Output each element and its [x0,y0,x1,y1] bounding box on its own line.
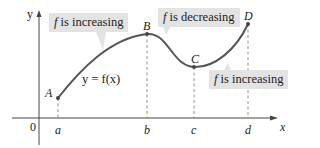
y-axis-label: y [27,8,33,20]
tick-label-a: a [55,124,61,136]
callout-text: is increasing [217,72,283,86]
x-axis-arrow-icon [270,116,278,121]
curve-label: y = f(x) [82,73,120,86]
point-label-a: A [45,87,52,99]
point-label-d: D [244,10,253,22]
tick-label-b: b [144,124,150,136]
point-label-b: B [143,20,150,32]
callout-increasing-right: f is increasing [209,70,288,89]
callout-pointer-1 [96,32,106,50]
point-a [56,96,60,100]
callout-increasing-left: f is increasing [49,13,128,32]
origin-label: 0 [30,121,36,133]
point-label-c: C [191,53,199,65]
y-axis-arrow-icon [37,10,42,17]
x-axis-label: x [280,121,285,133]
callout-text: is decreasing [166,10,234,24]
callout-text: is increasing [57,15,123,29]
tick-label-c: c [191,124,196,136]
callout-decreasing: f is decreasing [158,8,240,27]
tick-label-d: d [245,124,251,136]
